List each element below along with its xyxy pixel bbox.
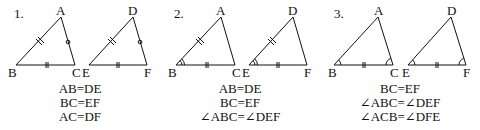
condition: BC=EF: [160, 96, 320, 110]
vertex-d: D: [128, 4, 137, 17]
angle-mark-b: [180, 61, 182, 65]
triangle-abc: [176, 17, 235, 65]
vertex-e: E: [242, 66, 250, 79]
conditions: AB=DE BC=EF ∠ABC=∠DEF: [160, 82, 320, 124]
conditions: BC=EF ∠ABC=∠DEF ∠ACB=∠DFE: [320, 82, 480, 124]
vertex-c: C: [390, 66, 399, 79]
vertex-b: B: [8, 66, 17, 79]
vertex-d: D: [288, 4, 297, 17]
condition: ∠ABC=∠DEF: [160, 110, 320, 124]
problem-number: 3.: [334, 6, 344, 22]
triangle-def: [249, 17, 307, 65]
vertex-b: B: [328, 66, 337, 79]
vertex-f: F: [144, 66, 151, 79]
condition: BC=EF: [320, 82, 480, 96]
condition: ∠ACB=∠DFE: [320, 110, 480, 124]
vertex-f: F: [304, 66, 311, 79]
problem-number: 1.: [14, 6, 24, 22]
triangle-def: [408, 17, 466, 65]
condition: AB=DE: [160, 82, 320, 96]
vertex-e: E: [82, 66, 90, 79]
angle-mark-b: [339, 60, 341, 65]
vertex-d: D: [447, 4, 456, 17]
vertex-a: A: [56, 4, 65, 17]
vertex-b: B: [168, 66, 177, 79]
triangle-abc: [334, 17, 393, 65]
vertex-f: F: [463, 66, 470, 79]
angle-mark-e: [253, 61, 255, 65]
condition: ∠ABC=∠DEF: [320, 96, 480, 110]
problem-number: 2.: [174, 6, 184, 22]
condition: AB=DE: [0, 82, 160, 96]
condition: BC=EF: [0, 96, 160, 110]
vertex-c: C: [72, 66, 81, 79]
vertex-a: A: [374, 4, 383, 17]
vertex-a: A: [216, 4, 225, 17]
conditions: AB=DE BC=EF AC=DF: [0, 82, 160, 124]
angle-mark-e: [413, 60, 415, 65]
vertex-e: E: [402, 66, 410, 79]
condition: AC=DF: [0, 110, 160, 124]
panel-sas: 2. A B C D E F AB=DE BC=EF ∠ABC=∠DEF: [160, 0, 320, 130]
vertex-c: C: [232, 66, 241, 79]
panel-asa: 3. A B C D E F BC=EF ∠ABC=∠DEF ∠ACB=∠DFE: [320, 0, 480, 130]
panel-sss: 1. A B C D E F AB=DE BC=EF AC=DF: [0, 0, 160, 130]
